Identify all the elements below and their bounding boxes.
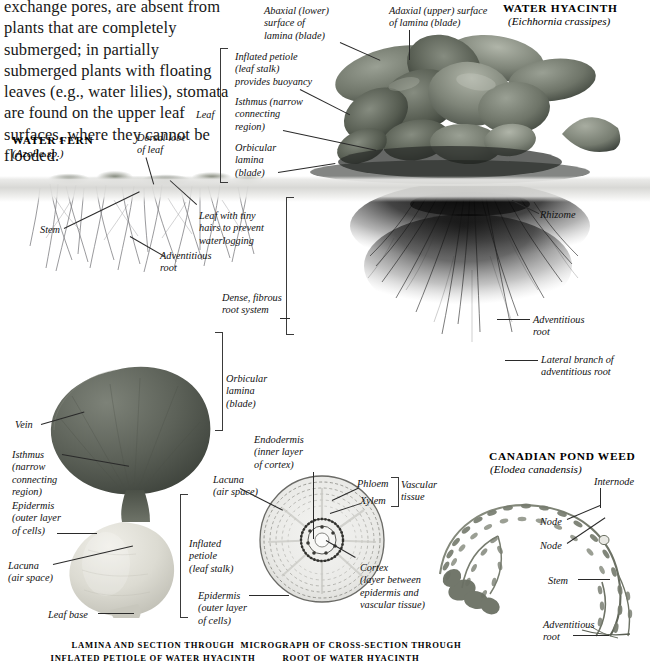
pond-weed-photo	[432, 478, 647, 643]
label-adaxial-surface: Adaxial (upper) surface of lamina (blade…	[389, 5, 487, 30]
label-lacuna-plate: Lacuna (air space)	[8, 560, 53, 585]
label-lateral-branch: Lateral branch of adventitious root	[541, 354, 614, 379]
label-internode: Internode	[594, 476, 634, 488]
leader-leaf-base	[98, 613, 134, 614]
leader-endodermis	[313, 472, 314, 539]
vascular-tissue-bracket	[391, 477, 399, 507]
label-isthmus-region: Isthmus (narrow connecting region)	[235, 96, 303, 133]
orbicular-lamina-bracket	[215, 332, 223, 431]
label-endodermis: Endodermis (inner layer of cortex)	[254, 434, 304, 471]
leader-dense-fibrous	[280, 318, 290, 319]
label-inflated-petiole-buoyancy: Inflated petiole (leaf stalk) provides b…	[235, 51, 312, 88]
label-phloem: Phloem	[357, 478, 388, 490]
label-leaf-with-tiny-hairs: Leaf with tiny hairs to prevent waterlog…	[199, 210, 264, 247]
micrograph-caption: MICROGRAPH OF CROSS-SECTION THROUGH ROOT…	[236, 639, 466, 664]
label-vein: Vein	[15, 419, 33, 431]
water-fern-binomial: (Azolla sp.)	[12, 147, 64, 159]
pond-weed-binomial: (Elodea canadensis)	[490, 463, 582, 475]
leader-hyacinth-adv-root	[497, 319, 530, 320]
water-hyacinth-title: WATER HYACINTH	[503, 2, 617, 14]
label-rhizome: Rhizome	[540, 209, 575, 221]
label-cortex: Cortex (layer between epidermis and vasc…	[360, 562, 425, 612]
inflated-petiole-bracket	[180, 494, 188, 618]
label-node-1: Node	[540, 516, 562, 528]
label-isthmus-plate: Isthmus (narrow connecting region)	[12, 449, 57, 499]
leader-lateral-branch	[505, 360, 538, 361]
label-abaxial-surface: Abaxial (lower) surface of lamina (blade…	[264, 5, 329, 42]
water-hyacinth-binomial: (Eichhornia crassipes)	[508, 15, 610, 27]
label-water-fern-stem: Stem	[40, 224, 60, 236]
label-node-2: Node	[540, 540, 562, 552]
leader-epidermis-micrograph	[249, 595, 289, 596]
label-dorsal-lobe-of-leaf: Dorsal lobe of leaf	[137, 132, 186, 157]
leader-pond-weed-root	[573, 635, 609, 636]
label-pond-weed-stem: Stem	[548, 575, 568, 587]
label-epidermis-plate: Epidermis (outer layer of cells)	[12, 500, 61, 537]
elodea-specimen	[432, 478, 647, 643]
root-system-bracket	[286, 197, 294, 335]
fibrous-root-mass	[330, 186, 620, 376]
label-inflated-petiole-plate: Inflated petiole (leaf stalk)	[189, 538, 233, 575]
waterline-band	[0, 176, 650, 202]
reference-page: exchange pores, are absent from plants t…	[0, 0, 650, 669]
leader-pond-weed-stem	[578, 579, 610, 580]
water-fern-title: WATER FERN	[12, 134, 93, 146]
label-orbicular-lamina-plate: Orbicular lamina (blade)	[226, 373, 267, 410]
label-hyacinth-adventitious-root: Adventitious root	[533, 314, 584, 339]
leader-epidermis-plate	[57, 533, 97, 534]
water-hyacinth-root-photo	[330, 186, 620, 376]
pond-weed-title: CANADIAN POND WEED	[489, 450, 635, 462]
label-leaf-bracket: Leaf	[196, 109, 214, 121]
label-orbicular-lamina-top: Orbicular lamina (blade)	[235, 142, 276, 179]
label-dense-fibrous-root-system: Dense, fibrous root system	[222, 292, 282, 317]
label-pond-weed-adventitious-root: Adventitious root	[543, 619, 594, 644]
lamina-plate-caption: LAMINA AND SECTION THROUGH INFLATED PETI…	[48, 639, 258, 664]
label-leaf-base: Leaf base	[48, 609, 88, 621]
leader-adaxial	[409, 30, 410, 60]
label-epidermis-micrograph: Epidermis (outer layer of cells)	[198, 590, 247, 627]
label-vascular-tissue: Vascular tissue	[401, 479, 437, 504]
label-xylem: Xylem	[360, 495, 386, 507]
leaf-bracket	[220, 48, 228, 183]
label-water-fern-adventitious-root: Adventitious root	[160, 250, 211, 275]
